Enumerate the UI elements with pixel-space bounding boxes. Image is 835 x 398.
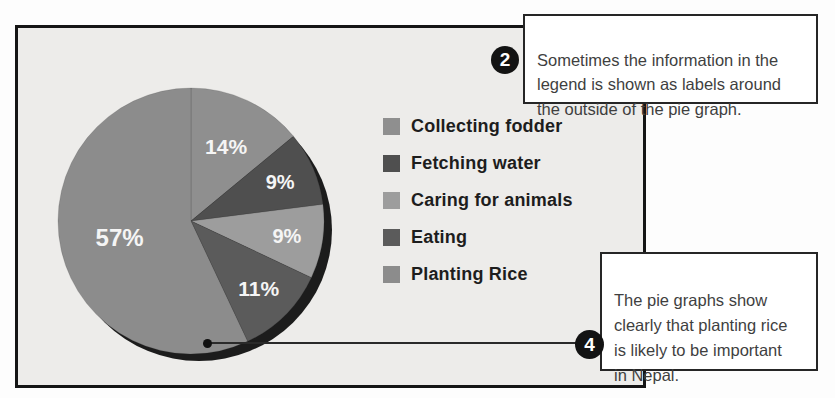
legend-item: Caring for animals [383,191,573,209]
step-2-badge-number: 2 [500,49,511,71]
pie-slice-label: 57% [96,224,144,251]
legend-item: Fetching water [383,154,573,172]
pie-slice-label: 9% [266,171,295,193]
legend-swatch [383,229,400,246]
callout-conclusion-note: The pie graphs show clearly that plantin… [600,252,818,371]
callout-conclusion-note-text: The pie graphs show clearly that plantin… [614,291,787,384]
legend: Collecting fodder Fetching water Caring … [383,117,573,302]
pie-chart: 14%9%9%11%57% [45,75,345,375]
page: 14%9%9%11%57% Collecting fodder Fetching… [0,0,835,398]
callout-leader-line [207,342,577,344]
legend-label: Fetching water [411,153,541,174]
callout-legend-note-text: Sometimes the information in the legend … [537,51,781,118]
legend-swatch [383,118,400,135]
legend-label: Caring for animals [411,190,573,211]
legend-item: Eating [383,228,573,246]
pie-slice-label: 11% [238,277,279,300]
pie-slice-label: 9% [272,225,301,247]
pie-slice-label: 14% [205,135,247,158]
legend-label: Planting Rice [411,264,528,285]
legend-swatch [383,266,400,283]
step-4-badge: 4 [575,330,604,359]
step-2-badge: 2 [491,46,519,74]
callout-leader-dot [203,339,212,348]
step-4-badge-number: 4 [584,334,595,356]
pie-chart-area: 14%9%9%11%57% [45,75,345,375]
legend-swatch [383,155,400,172]
callout-legend-note: Sometimes the information in the legend … [523,14,818,104]
legend-label: Eating [411,227,467,248]
legend-item: Planting Rice [383,265,573,283]
legend-swatch [383,192,400,209]
